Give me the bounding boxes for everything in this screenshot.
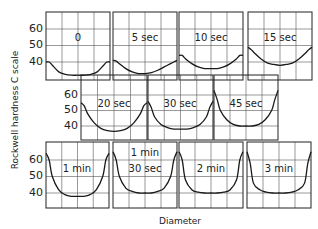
panel-label-3min: 3 min — [265, 163, 293, 174]
ytick-40-top: 40 — [29, 55, 43, 68]
panel-label-1min30-line2: 30 sec — [129, 163, 162, 174]
panel-label-30sec: 30 sec — [164, 98, 197, 109]
panel-label-10sec: 10 sec — [195, 32, 228, 43]
ytick-60-mid: 60 — [64, 88, 78, 101]
ytick-50-bottom: 50 — [29, 169, 43, 182]
panel-2 — [179, 12, 243, 80]
panel-1 — [113, 12, 177, 80]
panel-label-20sec: 20 sec — [98, 98, 131, 109]
panel-7 — [46, 142, 109, 208]
panel-10 — [247, 142, 311, 208]
panel-label-1min30-line1: 1 min — [131, 147, 159, 158]
ytick-60-bottom: 60 — [29, 153, 43, 166]
panel-label-1min: 1 min — [63, 163, 91, 174]
panel-9 — [179, 142, 243, 208]
panel-label-2min: 2 min — [197, 163, 225, 174]
x-axis-label: Diameter — [159, 216, 201, 226]
panel-label-15sec: 15 sec — [264, 32, 297, 43]
panel-3 — [248, 12, 312, 80]
hardness-chart: 60 50 40 60 50 40 60 50 40 Rockwell hard… — [0, 0, 318, 229]
ytick-50-top: 50 — [29, 38, 43, 51]
panel-0 — [46, 12, 110, 80]
ytick-40-bottom: 40 — [29, 186, 43, 199]
ytick-60-top: 60 — [29, 22, 43, 35]
ytick-50-mid: 50 — [64, 103, 78, 116]
ytick-40-mid: 40 — [64, 119, 78, 132]
panel-label-0: 0 — [75, 32, 81, 43]
panel-label-5sec: 5 sec — [132, 32, 158, 43]
y-axis-label: Rockwell hardness C scale — [10, 50, 20, 169]
panel-label-45sec: 45 sec — [230, 98, 263, 109]
